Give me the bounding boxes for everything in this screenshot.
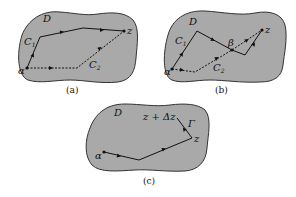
caption-a: (a)	[66, 85, 78, 95]
region-label-a: D	[42, 13, 51, 24]
end-label-b: z	[264, 24, 271, 35]
panel-b: D C1 β C2 α z (b)	[164, 11, 286, 95]
increment-label-c: z + Δz	[142, 111, 176, 122]
point-z-b	[260, 28, 263, 31]
start-label-a: α	[18, 65, 25, 76]
path-independence-diagram: D C1 C2 α z (a) D C1 β C2 α z (b)	[0, 0, 296, 197]
region-label-c: D	[113, 107, 122, 118]
region-label-b: D	[188, 16, 197, 27]
intersection-label-b: β	[227, 37, 234, 48]
panel-c: D z + Δz Γ z α (c)	[86, 104, 209, 186]
end-label-a: z	[126, 25, 133, 36]
end-label-c: z	[193, 133, 200, 144]
region-d-blob-a	[19, 12, 138, 83]
point-alpha-c	[102, 150, 105, 153]
start-label-c: α	[95, 150, 102, 161]
panel-a: D C1 C2 α z (a)	[18, 12, 138, 95]
gamma-label-c: Γ	[187, 118, 196, 129]
point-alpha-a	[25, 66, 28, 69]
point-alpha-b	[170, 67, 173, 70]
caption-b: (b)	[215, 85, 228, 95]
start-label-b: α	[164, 66, 171, 77]
point-z-a	[122, 29, 125, 32]
point-beta-b	[230, 48, 233, 51]
caption-c: (c)	[143, 176, 155, 186]
